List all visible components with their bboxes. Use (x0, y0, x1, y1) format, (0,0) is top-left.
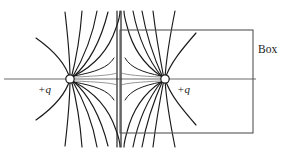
left-charge-label: +q (38, 83, 51, 95)
field-line-canvas (0, 0, 285, 156)
field-line-axis-lower-right (121, 81, 160, 85)
field-line-left-down-4 (72, 80, 97, 147)
field-line-figure: +q +q Box (0, 0, 285, 156)
field-line-axis-upper-right (121, 73, 160, 77)
left-charge-marker (66, 75, 74, 83)
field-line-right-up-2 (165, 11, 175, 79)
field-line-right-down-2 (165, 79, 175, 147)
field-line-right-up-4 (142, 11, 163, 78)
field-line-left-up-1 (36, 38, 70, 79)
right-charge-marker (161, 75, 169, 83)
field-line-left-up-4 (72, 11, 97, 78)
gaussian-box-outline (120, 30, 253, 133)
right-charge-label: +q (177, 83, 190, 95)
gaussian-box (120, 30, 253, 133)
box-label: Box (258, 43, 277, 55)
field-line-right-down-4 (142, 80, 163, 147)
